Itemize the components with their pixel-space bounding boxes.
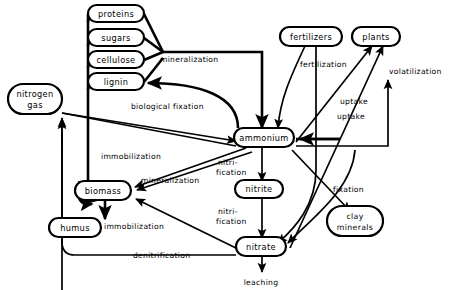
node-label-ammonium: ammonium [239, 133, 288, 143]
edge-label-nitrification-2a: nitri- [218, 207, 238, 216]
node-label-biomass: biomass [85, 186, 121, 196]
edge-label-fixation: fixation [333, 185, 364, 194]
edge-label-fertilization: fertilization [300, 60, 347, 69]
node-ammonium[interactable]: ammonium [234, 128, 294, 147]
node-nitrogen-gas[interactable]: nitrogen gas [8, 84, 62, 114]
node-label-fertilizers: fertilizers [290, 32, 332, 42]
node-proteins[interactable]: proteins [88, 5, 144, 22]
edge-label-mineralization-bio: mineralization [141, 176, 199, 185]
edge-label-uptake-1: uptake [340, 97, 368, 106]
node-fertilizers[interactable]: fertilizers [280, 27, 342, 46]
edge-label-denitrification: denitrification [133, 251, 190, 260]
nitrogen-cycle-diagram: proteins sugars cellulose lignin nitroge… [0, 0, 456, 290]
node-clay-minerals[interactable]: clay minerals [327, 206, 383, 236]
diagram-canvas: proteins sugars cellulose lignin nitroge… [0, 0, 456, 290]
node-label-nitrogen-gas: nitrogen [16, 89, 53, 99]
edge-label-immobilization-bot: immobilization [104, 222, 164, 231]
node-lignin[interactable]: lignin [88, 73, 144, 90]
node-label-humus: humus [60, 223, 90, 233]
edge-label-biological-fixation: biological fixation [131, 102, 204, 111]
edge-fixation-clay [292, 150, 350, 211]
node-label-sugars: sugars [101, 33, 130, 43]
edge-label-nitrification-2b: fication [216, 217, 247, 226]
edge-fertilization-ammonium [278, 46, 305, 128]
edge-label-nitrification-1a: nitri- [218, 158, 238, 167]
edge-label-leaching: leaching [244, 278, 279, 287]
node-humus[interactable]: humus [49, 218, 101, 237]
node-biomass[interactable]: biomass [75, 181, 131, 200]
edge-label-volatilization: volatilization [389, 67, 442, 76]
node-label-nitrite: nitrite [245, 184, 272, 194]
node-label-cellulose: cellulose [96, 55, 135, 65]
node-nitrate[interactable]: nitrate [236, 237, 286, 256]
node-plants[interactable]: plants [352, 27, 400, 46]
node-label-nitrogen-gas-2: gas [27, 100, 43, 110]
node-label-clay-minerals: clay [346, 212, 363, 221]
node-cellulose[interactable]: cellulose [88, 51, 144, 68]
node-group: proteins sugars cellulose lignin nitroge… [8, 5, 400, 256]
node-label-nitrate: nitrate [246, 242, 276, 252]
node-label-proteins: proteins [98, 9, 134, 19]
edge-label-nitrification-1b: fication [216, 168, 247, 177]
node-label-clay-minerals-2: minerals [337, 223, 374, 232]
node-label-plants: plants [362, 32, 389, 42]
edge-label-immobilization-top: immobilization [101, 152, 161, 161]
node-nitrite[interactable]: nitrite [235, 180, 283, 198]
edge-label-uptake-2: uptake [337, 112, 365, 121]
edge-label-mineralization-om: mineralization [160, 55, 218, 64]
node-label-lignin: lignin [104, 77, 129, 87]
node-sugars[interactable]: sugars [88, 29, 144, 46]
